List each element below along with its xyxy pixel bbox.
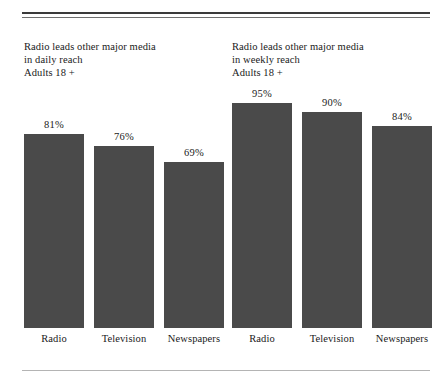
bar-slot-newspapers: 69%	[164, 88, 224, 328]
category-axis-weekly-reach: Radio Television Newspapers	[232, 332, 432, 345]
bar-slot-television: 76%	[94, 88, 154, 328]
top-rule-thin	[22, 17, 430, 18]
chart-title-weekly-reach: Radio leads other major media in weekly …	[232, 40, 432, 80]
bar-group-daily-reach: 81% 76% 69%	[24, 88, 224, 328]
bar-newspapers	[164, 162, 224, 328]
bar-newspapers	[372, 126, 432, 328]
bar-value-label: 69%	[184, 147, 204, 159]
plot-area-daily-reach: 81% 76% 69%	[24, 88, 224, 328]
bar-slot-radio: 95%	[232, 88, 292, 328]
category-label-television: Television	[302, 332, 362, 345]
category-label-newspapers: Newspapers	[164, 332, 224, 345]
figure-page: Radio leads other major media in daily r…	[0, 0, 448, 386]
bar-slot-newspapers: 84%	[372, 88, 432, 328]
plot-area-weekly-reach: 95% 90% 84%	[232, 88, 432, 328]
bar-radio	[24, 134, 84, 328]
category-axis-daily-reach: Radio Television Newspapers	[24, 332, 224, 345]
bar-group-weekly-reach: 95% 90% 84%	[232, 88, 432, 328]
bar-slot-radio: 81%	[24, 88, 84, 328]
bar-value-label: 81%	[44, 119, 64, 131]
bar-television	[94, 146, 154, 328]
bar-value-label: 84%	[392, 111, 412, 123]
bar-value-label: 95%	[252, 88, 272, 100]
category-label-newspapers: Newspapers	[372, 332, 432, 345]
top-rule-thick	[22, 12, 430, 14]
bar-radio	[232, 103, 292, 328]
bar-value-label: 76%	[114, 131, 134, 143]
bar-value-label: 90%	[322, 97, 342, 109]
bar-slot-television: 90%	[302, 88, 362, 328]
category-label-radio: Radio	[232, 332, 292, 345]
chart-title-daily-reach: Radio leads other major media in daily r…	[24, 40, 224, 80]
bottom-rule	[22, 370, 430, 371]
category-label-radio: Radio	[24, 332, 84, 345]
category-label-television: Television	[94, 332, 154, 345]
chart-panel-daily-reach: Radio leads other major media in daily r…	[24, 40, 224, 350]
bar-television	[302, 112, 362, 328]
chart-panel-weekly-reach: Radio leads other major media in weekly …	[232, 40, 432, 350]
